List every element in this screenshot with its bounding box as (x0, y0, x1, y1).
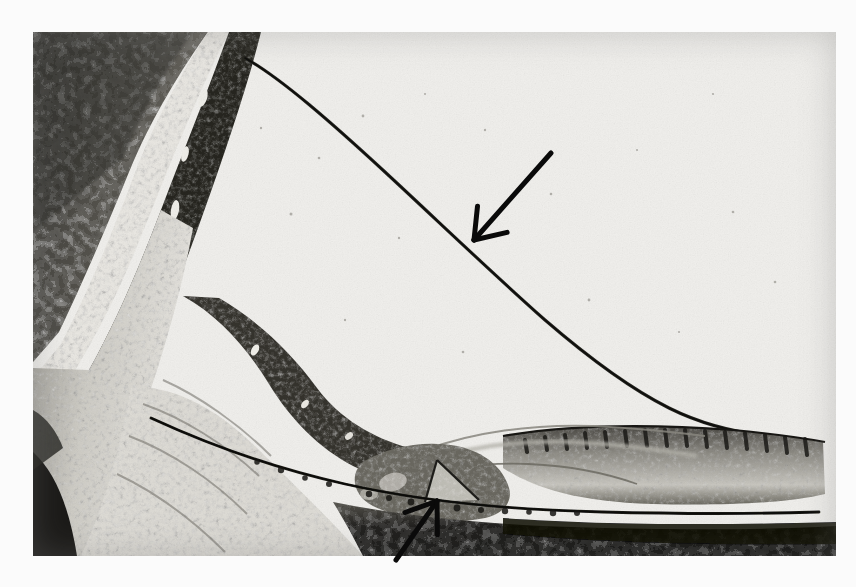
film-grain-overlay (33, 32, 836, 556)
micrograph-plate (33, 32, 836, 556)
figure-root: Black and white histological section of … (0, 0, 856, 587)
